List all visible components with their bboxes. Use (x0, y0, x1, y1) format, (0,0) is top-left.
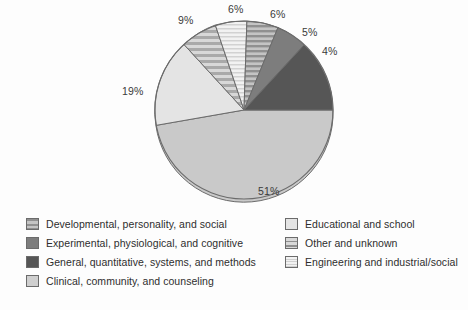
legend-swatch-general (26, 256, 39, 268)
legend-label-engineering: Engineering and industrial/social (305, 256, 458, 268)
legend-label-general: General, quantitative, systems, and meth… (46, 256, 256, 268)
legend-column-left: Developmental, personality, and social E… (26, 214, 256, 290)
pie-label-9: 9% (178, 14, 194, 26)
legend-item-educational: Educational and school (285, 214, 458, 233)
legend-swatch-clinical (26, 275, 39, 287)
legend-label-developmental: Developmental, personality, and social (46, 218, 227, 230)
legend-item-general: General, quantitative, systems, and meth… (26, 252, 256, 271)
legend-swatch-educational (285, 218, 298, 230)
legend-item-experimental: Experimental, physiological, and cogniti… (26, 233, 256, 252)
legend-swatch-developmental (26, 218, 39, 230)
pie-chart-figure: 51% 19% 9% 6% 6% 5% 4% Developmental, pe… (0, 0, 468, 310)
legend-swatch-experimental (26, 237, 39, 249)
pie-label-6-engineering: 6% (228, 3, 244, 15)
chart-legend: Developmental, personality, and social E… (0, 214, 468, 310)
legend-item-engineering: Engineering and industrial/social (285, 252, 458, 271)
pie-label-4: 4% (322, 45, 338, 57)
legend-column-right: Educational and school Other and unknown… (285, 214, 458, 271)
pie-svg (0, 0, 468, 215)
pie-label-51: 51% (258, 185, 280, 197)
pie-slice-clinical (156, 110, 333, 202)
legend-item-clinical: Clinical, community, and counseling (26, 271, 256, 290)
legend-label-experimental: Experimental, physiological, and cogniti… (46, 237, 243, 249)
legend-label-clinical: Clinical, community, and counseling (46, 275, 214, 287)
legend-item-developmental: Developmental, personality, and social (26, 214, 256, 233)
legend-label-other: Other and unknown (305, 237, 398, 249)
pie-label-5: 5% (302, 26, 318, 38)
legend-swatch-other (285, 237, 298, 249)
legend-swatch-engineering (285, 256, 298, 268)
legend-label-educational: Educational and school (305, 218, 415, 230)
pie-label-6-developmental: 6% (270, 8, 286, 20)
legend-item-other: Other and unknown (285, 233, 458, 252)
pie-plot-area: 51% 19% 9% 6% 6% 5% 4% (0, 0, 468, 215)
pie-label-19: 19% (122, 85, 144, 97)
